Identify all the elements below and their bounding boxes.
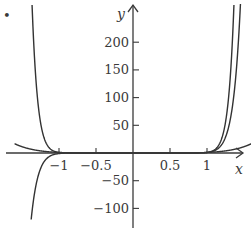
x-tick-label: −1	[49, 158, 68, 173]
y-tick-label: −50	[102, 173, 129, 188]
y-tick-label: 50	[112, 118, 129, 133]
y-axis-label: y	[116, 6, 126, 22]
x-tick-label: 0.5	[160, 158, 181, 173]
exercise-bullet: •	[3, 8, 11, 23]
x-axis-label: x	[235, 161, 243, 177]
y-tick-label: −100	[93, 201, 129, 216]
x-ticks: −1−0.50.51	[49, 148, 211, 173]
series-line-2	[31, 4, 240, 219]
x-tick-label: 1	[203, 158, 211, 173]
y-tick-label: 150	[104, 62, 129, 77]
y-tick-label: 100	[104, 90, 129, 105]
x-tick-label: −0.5	[80, 158, 112, 173]
y-tick-label: 200	[104, 35, 129, 50]
chart: • x y −1−0.50.51 20015010050−50−100	[0, 0, 251, 229]
y-ticks: 20015010050−50−100	[93, 35, 139, 216]
